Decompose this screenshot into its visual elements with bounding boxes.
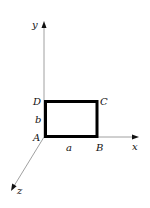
vertex-label-b: B xyxy=(95,142,103,153)
y-axis-label: y xyxy=(31,19,38,30)
side-label-b: b xyxy=(35,114,41,125)
z-axis-label: z xyxy=(16,185,23,196)
vertex-label-a: A xyxy=(32,132,40,143)
rectangle-abcd xyxy=(46,102,98,137)
y-axis-arrowhead-icon xyxy=(42,21,47,28)
z-axis xyxy=(14,137,44,186)
vertex-label-c: C xyxy=(100,96,108,107)
vertex-label-d: D xyxy=(32,96,41,107)
diagram-canvas: y x z D C A B b a xyxy=(0,0,150,208)
x-axis-arrowhead-icon xyxy=(132,135,139,140)
z-axis-arrowhead-icon xyxy=(11,184,17,192)
x-axis-label: x xyxy=(132,141,138,152)
side-label-a: a xyxy=(66,142,72,153)
